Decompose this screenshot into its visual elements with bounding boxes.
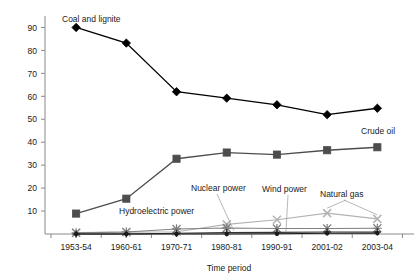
y-axis-tick-labels: 102030405060708090 [28, 23, 38, 217]
y-tick-label: 50 [28, 114, 38, 124]
chart-container: 102030405060708090 1953-541960-611970-71… [0, 0, 420, 279]
y-tick-label: 30 [28, 160, 38, 170]
y-tick-label: 10 [28, 206, 38, 216]
x-tick-label: 1953-54 [61, 242, 92, 252]
data-point-marker [124, 232, 128, 236]
y-tick-label: 90 [28, 23, 38, 33]
data-point-marker [375, 231, 379, 235]
annotation-nuclear-power: Nuclear power [191, 183, 246, 193]
data-point-marker [325, 231, 329, 235]
annotation-hydroelectric-power: Hydroelectric power [119, 206, 194, 216]
y-tick-label: 20 [28, 183, 38, 193]
x-tick-label: 1970-71 [161, 242, 192, 252]
x-tick-label: 2001-02 [312, 242, 343, 252]
x-tick-label: 2003-04 [362, 242, 393, 252]
data-point-marker [275, 232, 279, 236]
x-tick-label: 1990-91 [261, 242, 292, 252]
annotation-wind-power: Wind power [262, 184, 307, 194]
y-tick-label: 40 [28, 137, 38, 147]
data-point-marker [324, 147, 331, 154]
line-chart: 102030405060708090 1953-541960-611970-71… [0, 0, 420, 279]
y-tick-label: 60 [28, 92, 38, 102]
annotation-coal-and-lignite: Coal and lignite [62, 14, 121, 24]
data-point-marker [73, 210, 80, 217]
data-point-marker [223, 149, 230, 156]
data-point-marker [273, 151, 280, 158]
data-point-marker [374, 144, 381, 151]
x-tick-label: 1980-81 [211, 242, 242, 252]
data-point-marker [225, 232, 229, 236]
x-axis-title: Time period [207, 263, 252, 273]
chart-background [0, 0, 420, 279]
y-tick-label: 70 [28, 69, 38, 79]
data-point-marker [173, 155, 180, 162]
y-tick-label: 80 [28, 46, 38, 56]
x-tick-label: 1960-61 [111, 242, 142, 252]
annotation-natural-gas: Natural gas [320, 189, 363, 199]
data-point-marker [174, 232, 178, 236]
data-point-marker [74, 232, 78, 236]
data-point-marker [123, 195, 130, 202]
annotation-crude-oil: Crude oil [361, 126, 395, 136]
